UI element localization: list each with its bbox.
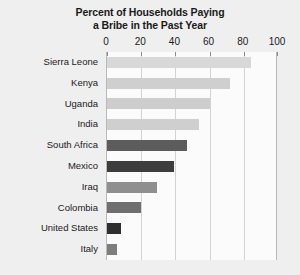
category-label-sierra-leone: Sierra Leone	[0, 52, 102, 73]
bar-row	[107, 198, 276, 219]
tickmark-100	[277, 52, 278, 56]
bars-layer	[107, 52, 276, 260]
bar-row	[107, 73, 276, 94]
x-tick-label-40: 40	[169, 36, 180, 47]
bar-india	[107, 119, 199, 130]
category-label-uganda: Uganda	[0, 94, 102, 115]
bar-mexico	[107, 161, 174, 172]
bar-south-africa	[107, 140, 187, 151]
x-tick-label-0: 0	[103, 36, 109, 47]
x-tick-label-60: 60	[203, 36, 214, 47]
x-tick-label-20: 20	[135, 36, 146, 47]
bar-row	[107, 239, 276, 260]
bar-row	[107, 94, 276, 115]
x-tick-label-100: 100	[269, 36, 286, 47]
y-axis-category-labels: Sierra LeoneKenyaUgandaIndiaSouth Africa…	[0, 52, 102, 260]
bar-uganda	[107, 98, 210, 109]
bar-italy	[107, 244, 117, 255]
bar-iraq	[107, 182, 157, 193]
bar-chart: Percent of Households Paying a Bribe in …	[0, 0, 300, 275]
plot-area	[106, 52, 277, 260]
category-label-south-africa: South Africa	[0, 135, 102, 156]
category-label-united-states: United States	[0, 218, 102, 239]
x-axis-tick-labels: 020406080100	[0, 36, 300, 50]
category-label-mexico: Mexico	[0, 156, 102, 177]
category-label-italy: Italy	[0, 239, 102, 260]
category-label-india: India	[0, 114, 102, 135]
category-label-kenya: Kenya	[0, 73, 102, 94]
chart-title: Percent of Households Paying a Bribe in …	[0, 6, 300, 32]
bar-row	[107, 177, 276, 198]
chart-title-line-1: Percent of Households Paying	[0, 6, 300, 19]
category-label-colombia: Colombia	[0, 198, 102, 219]
x-tick-label-80: 80	[237, 36, 248, 47]
chart-title-line-2: a Bribe in the Past Year	[0, 19, 300, 32]
bar-row	[107, 114, 276, 135]
bar-united-states	[107, 223, 121, 234]
category-label-iraq: Iraq	[0, 177, 102, 198]
bar-kenya	[107, 78, 230, 89]
bar-colombia	[107, 202, 141, 213]
bar-row	[107, 218, 276, 239]
bar-sierra-leone	[107, 57, 251, 68]
bar-row	[107, 156, 276, 177]
bar-row	[107, 52, 276, 73]
bar-row	[107, 135, 276, 156]
